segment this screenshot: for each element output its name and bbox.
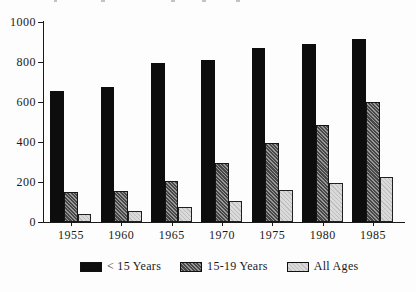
y-axis-line — [43, 21, 44, 223]
x-axis-tick — [272, 222, 273, 226]
y-axis-tick — [38, 142, 43, 143]
bar-solid-black-1970 — [201, 60, 215, 222]
y-axis-tick — [38, 182, 43, 183]
bar-hatched-dark-1980 — [316, 125, 330, 222]
x-axis-tick — [172, 222, 173, 226]
bar-solid-black-1980 — [302, 44, 316, 222]
y-axis-tick — [38, 222, 43, 223]
bar-solid-black-1975 — [252, 48, 266, 222]
x-axis-tick-label: 1980 — [301, 228, 345, 242]
legend-label: All Ages — [314, 260, 359, 273]
legend-item: < 15 Years — [80, 260, 161, 273]
x-axis-tick-label: 1965 — [150, 228, 194, 242]
x-axis-tick — [323, 222, 324, 226]
bar-hatched-light-1965 — [178, 207, 192, 222]
y-axis-tick-label: 200 — [4, 175, 36, 189]
y-axis-tick — [38, 62, 43, 63]
x-axis-tick-label: 1985 — [351, 228, 395, 242]
bar-hatched-dark-1985 — [366, 102, 380, 222]
bar-hatched-light-1960 — [128, 211, 142, 222]
bar-hatched-dark-1955 — [64, 192, 78, 222]
bar-hatched-light-1985 — [380, 177, 394, 222]
x-axis-tick — [121, 222, 122, 226]
bar-solid-black-1955 — [50, 91, 64, 222]
x-axis-tick — [373, 222, 374, 226]
legend-item: All Ages — [287, 260, 359, 273]
y-axis-tick-label: 400 — [4, 135, 36, 149]
x-axis-tick-label: 1960 — [99, 228, 143, 242]
x-axis-line — [43, 222, 405, 223]
chart-legend: < 15 Years15-19 YearsAll Ages — [80, 260, 358, 273]
bar-hatched-light-1955 — [78, 214, 92, 222]
bar-hatched-dark-1965 — [165, 181, 179, 222]
legend-swatch-solid-black — [80, 262, 102, 272]
legend-swatch-hatched-light — [287, 262, 309, 272]
bar-hatched-dark-1975 — [265, 143, 279, 222]
bar-hatched-light-1980 — [329, 183, 343, 222]
legend-swatch-hatched-dark — [180, 262, 202, 272]
bar-solid-black-1985 — [352, 39, 366, 222]
x-axis-tick — [71, 222, 72, 226]
bar-solid-black-1965 — [151, 63, 165, 222]
x-axis-tick-label: 1975 — [250, 228, 294, 242]
bar-hatched-dark-1960 — [114, 191, 128, 222]
y-axis-tick — [38, 102, 43, 103]
y-axis-tick-label: 1000 — [4, 15, 36, 29]
y-axis-tick-label: 600 — [4, 95, 36, 109]
bar-chart-canvas: 02004006008001000 1955196019651970197519… — [0, 0, 416, 292]
legend-label: < 15 Years — [107, 260, 161, 273]
bar-solid-black-1960 — [101, 87, 115, 222]
x-axis-tick-label: 1970 — [200, 228, 244, 242]
bar-hatched-dark-1970 — [215, 163, 229, 222]
legend-item: 15-19 Years — [180, 260, 268, 273]
bar-hatched-light-1975 — [279, 190, 293, 222]
x-axis-tick — [222, 222, 223, 226]
bar-hatched-light-1970 — [229, 201, 243, 222]
legend-label: 15-19 Years — [207, 260, 268, 273]
y-axis-tick — [38, 22, 43, 23]
y-axis-tick-label: 800 — [4, 55, 36, 69]
y-axis-tick-label: 0 — [4, 215, 36, 229]
x-axis-tick-label: 1955 — [49, 228, 93, 242]
